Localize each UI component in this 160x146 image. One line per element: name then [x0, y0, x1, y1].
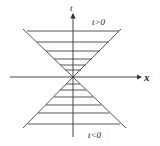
- past-region-label: t<0: [88, 130, 102, 140]
- x-axis-label: x: [143, 71, 150, 83]
- future-region-label: t>0: [92, 17, 106, 27]
- past-cone: [23, 77, 126, 128]
- future-cone: [23, 29, 121, 77]
- t-axis-label: t: [70, 3, 73, 13]
- light-cone-diagram: x t t>0 t<0: [0, 0, 160, 146]
